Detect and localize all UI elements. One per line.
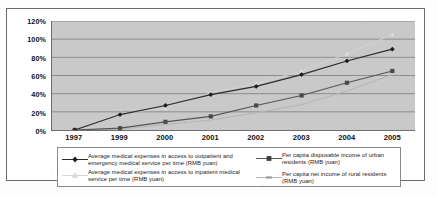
x-tick-label: 2001 (202, 133, 219, 142)
legend-label: Average medical expenses in access to in… (88, 169, 252, 183)
legend-item-urban-income[interactable]: Per capita disposable income of urban re… (256, 152, 402, 166)
legend-column-right: Per capita disposable income of urban re… (254, 148, 402, 186)
y-tick-label: 40% (31, 90, 46, 99)
legend-item-outpatient[interactable]: Average medical expenses in access to ou… (62, 153, 252, 167)
legend-item-rural-income[interactable]: Per capita net income of rural residents… (256, 171, 402, 185)
legend-label: Per capita net income of rural residents… (282, 171, 402, 185)
x-tick-label: 2002 (247, 133, 264, 142)
x-tick-label: 1997 (65, 133, 82, 142)
triangle-marker-icon (62, 171, 88, 180)
x-tick-label: 2005 (384, 133, 401, 142)
chart-legend: Average medical expenses in access to ou… (57, 147, 401, 187)
y-axis-tick-labels: 120% 100% 80% 60% 40% 20% 0% (9, 21, 49, 131)
x-tick-label: 1999 (111, 133, 128, 142)
legend-label: Per capita disposable income of urban re… (282, 152, 402, 166)
line-marker-icon (256, 173, 282, 182)
plot-area (51, 21, 415, 131)
y-tick-label: 20% (31, 108, 46, 117)
x-tick-label: 2000 (156, 133, 173, 142)
figure-frame: 120% 100% 80% 60% 40% 20% 0% 1997 1999 2… (6, 8, 425, 181)
y-tick-label: 100% (27, 35, 46, 44)
legend-label: Average medical expenses in access to ou… (88, 153, 252, 167)
series-canvas (52, 21, 415, 130)
chart-screenshot: 120% 100% 80% 60% 40% 20% 0% 1997 1999 2… (0, 0, 437, 197)
y-tick-label: 0% (35, 127, 46, 136)
diamond-marker-icon (62, 155, 88, 164)
y-tick-label: 60% (31, 72, 46, 81)
plot-wrapper: 120% 100% 80% 60% 40% 20% 0% 1997 1999 2… (51, 21, 415, 131)
square-marker-icon (256, 154, 282, 163)
legend-item-inpatient[interactable]: Average medical expenses in access to in… (62, 169, 252, 183)
y-tick-label: 80% (31, 53, 46, 62)
legend-column-left: Average medical expenses in access to ou… (58, 148, 254, 186)
x-tick-label: 2004 (338, 133, 355, 142)
y-tick-label: 120% (27, 17, 46, 26)
x-tick-label: 2003 (293, 133, 310, 142)
x-axis-tick-labels: 1997 1999 2000 2001 2002 2003 2004 2005 (51, 133, 415, 147)
